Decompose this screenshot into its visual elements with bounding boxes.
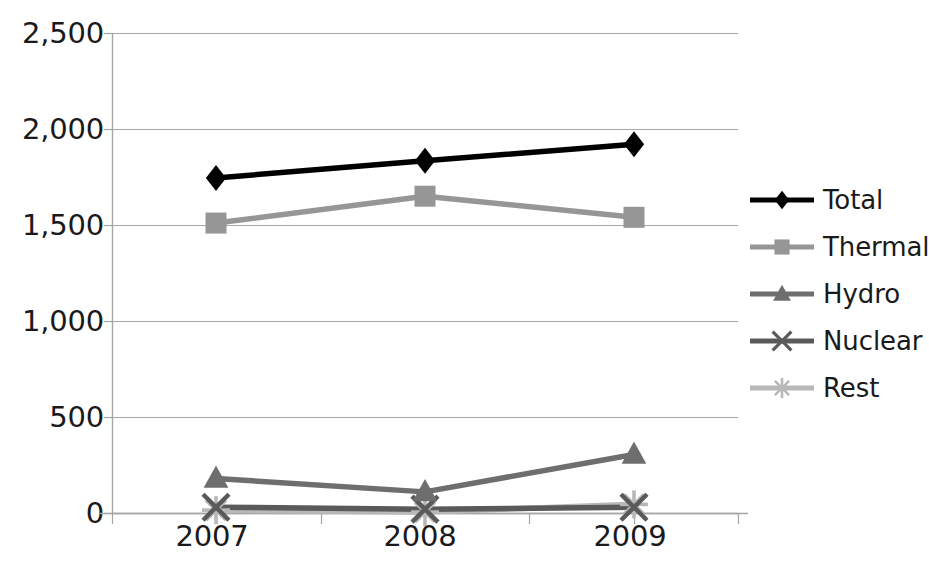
x-tick-label: 2008: [350, 522, 490, 551]
legend-label: Total: [823, 187, 883, 213]
y-tick-label: 2,500: [4, 19, 104, 48]
y-tick-label: 1,500: [4, 211, 104, 240]
x-marker-icon: [748, 328, 816, 354]
y-axis: 2,500 2,000 1,500 1,000 500 0: [0, 0, 104, 585]
x-tick-label: 2009: [560, 522, 700, 551]
legend-label: Nuclear: [823, 328, 922, 354]
plot-area: [112, 33, 738, 513]
chart-legend: Total Thermal Hydro Nuclear Rest: [748, 176, 920, 411]
legend-item-rest[interactable]: Rest: [748, 364, 920, 411]
y-tick-label: 0: [4, 499, 104, 528]
square-marker-icon: [748, 234, 816, 260]
y-tick-label: 2,000: [4, 115, 104, 144]
legend-label: Thermal: [823, 234, 929, 260]
x-axis: 2007 2008 2009: [112, 522, 738, 572]
triangle-marker-icon: [748, 281, 816, 307]
x-tick-label: 2007: [142, 522, 282, 551]
legend-label: Rest: [823, 375, 879, 401]
legend-item-total[interactable]: Total: [748, 176, 920, 223]
legend-label: Hydro: [823, 281, 900, 307]
y-tick-label: 1,000: [4, 307, 104, 336]
asterisk-marker-icon: [748, 375, 816, 401]
data-series-layer: [112, 33, 738, 513]
y-tick-label: 500: [4, 403, 104, 432]
legend-item-thermal[interactable]: Thermal: [748, 223, 920, 270]
legend-item-hydro[interactable]: Hydro: [748, 270, 920, 317]
diamond-marker-icon: [748, 187, 816, 213]
legend-item-nuclear[interactable]: Nuclear: [748, 317, 920, 364]
